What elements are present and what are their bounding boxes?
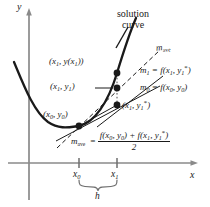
label-euler-predictor-point: (x1, y1*)	[122, 101, 150, 110]
solution-curve-label-line2: curve	[104, 19, 162, 30]
label-m-ave-line: mave	[156, 42, 171, 52]
m-ave-fraction: f(x0, y0) + f(x1, y1*) 2	[98, 130, 170, 152]
point-exact-solution	[114, 70, 121, 77]
label-m0-equation: m0 = f(x0, y0)	[140, 83, 187, 92]
point-initial	[76, 123, 83, 130]
figure-canvas: y x solution curve (x1, y(x1)) (x1, y1) …	[0, 0, 210, 207]
figure-vector-layer	[0, 0, 210, 207]
label-exact-solution-point: (x1, y(x1))	[49, 57, 84, 66]
solution-curve-label-line1: solution	[104, 8, 162, 19]
tick-label-x1: x1	[111, 170, 118, 180]
solution-curve-label: solution curve	[104, 8, 162, 30]
x-axis-arrowhead	[191, 160, 199, 166]
label-improved-euler-point: (x1, y1)	[50, 82, 75, 91]
m-ave-equation: mave = f(x0, y0) + f(x1, y1*) 2	[71, 130, 170, 152]
x-axis-label: x	[190, 170, 194, 180]
m-ave-denominator: 2	[130, 142, 139, 153]
m-ave-equation-lhs: mave =	[71, 136, 96, 146]
m-ave-numerator: f(x0, y0) + f(x1, y1*)	[98, 130, 170, 141]
label-m1-equation: m1 = f(x1, y1*)	[140, 66, 191, 75]
point-improved-euler	[114, 85, 121, 92]
y-axis-label: y	[17, 2, 21, 12]
h-brace	[79, 180, 117, 191]
y-axis-arrowhead	[26, 8, 32, 16]
label-initial-point: (x0, y0)	[43, 110, 68, 119]
tick-label-x0: x0	[73, 170, 80, 180]
brace-label-h: h	[95, 192, 100, 202]
point-euler-predictor	[114, 102, 121, 109]
